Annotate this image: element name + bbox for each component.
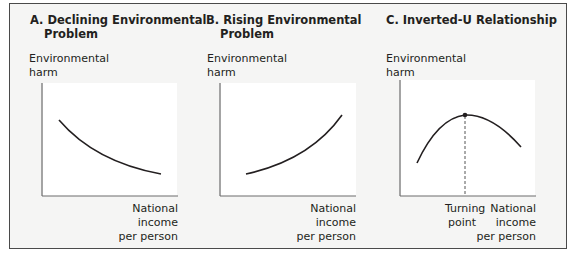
panel-c-x-label-line3: per person (458, 230, 536, 244)
panel-a-y-label: Environmental harm (29, 52, 109, 80)
panel-a-x-label-line2: income (100, 216, 178, 230)
panel-a-chart (42, 83, 178, 196)
panel-c-y-label: Environmental harm (386, 52, 466, 80)
panel-a-plot-area (43, 83, 177, 196)
panel-b-title: B. Rising Environmental Problem (206, 13, 362, 41)
panel-b-title-line2: Problem (206, 27, 362, 41)
panel-a-title: A. Declining Environmental Problem (30, 13, 207, 41)
panel-b-x-label-line2: income (278, 216, 356, 230)
panel-a-y-label-line2: harm (29, 66, 109, 80)
panel-b-x-label: National income per person (278, 202, 356, 244)
panel-b-plot-area (221, 83, 356, 196)
panel-b-x-label-line1: National (278, 202, 356, 216)
panel-c-title: C. Inverted-U Relationship (386, 13, 557, 27)
panel-a-x-label-line1: National (100, 202, 178, 216)
panel-c-x-label-line1: National (458, 202, 536, 216)
panel-a-title-line1: A. Declining Environmental (30, 13, 207, 27)
panel-a-x-label-line3: per person (100, 230, 178, 244)
panel-c-chart (400, 80, 536, 196)
panel-a-y-label-line1: Environmental (29, 52, 109, 66)
panel-c-y-label-line2: harm (386, 66, 466, 80)
panel-b-y-label-line1: Environmental (207, 52, 287, 66)
panel-b-y-label-line2: harm (207, 66, 287, 80)
turning-point-marker (463, 113, 468, 118)
panel-b-y-label: Environmental harm (207, 52, 287, 80)
panel-c-x-label-line2: income (458, 216, 536, 230)
panel-b-chart (220, 83, 356, 196)
panel-b-title-line1: B. Rising Environmental (206, 13, 362, 27)
panel-a-title-line2: Problem (30, 27, 207, 41)
panel-a-x-label: National income per person (100, 202, 178, 244)
panel-c-plot-area (401, 80, 535, 196)
panel-c-y-label-line1: Environmental (386, 52, 466, 66)
panel-b-x-label-line3: per person (278, 230, 356, 244)
panel-c-x-label: National income per person (458, 202, 536, 244)
panel-c-title-line1: C. Inverted-U Relationship (386, 13, 557, 27)
